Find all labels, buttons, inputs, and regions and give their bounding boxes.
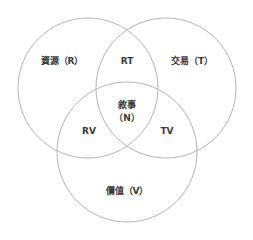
venn-label-center-line1: 敘事 xyxy=(114,99,140,112)
venn-label-rt: RT xyxy=(121,55,134,67)
venn-label-value: 價值（V） xyxy=(106,185,149,197)
venn-label-center-narrative: 敘事 （N） xyxy=(114,99,140,125)
venn-label-tv: TV xyxy=(160,125,173,137)
venn-circle-resource xyxy=(18,18,158,158)
venn-circle-transaction xyxy=(96,18,236,158)
venn-label-rv: RV xyxy=(82,125,96,137)
venn-label-center-line2: （N） xyxy=(114,112,140,125)
venn-label-resource: 資源（R） xyxy=(41,55,84,67)
venn-diagram: 資源（R） 交易（T） 價值（V） RT RV TV 敘事 （N） xyxy=(0,0,253,240)
venn-label-transaction: 交易（T） xyxy=(171,55,213,67)
